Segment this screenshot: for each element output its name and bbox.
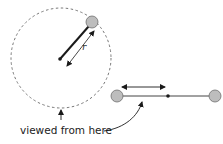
ball-side-right <box>209 90 221 102</box>
ball-top-view <box>86 16 98 28</box>
ball-side-left <box>111 90 123 102</box>
radius-label: r <box>82 42 87 52</box>
orbit-diagram: r viewed from here <box>0 0 223 144</box>
caption-text: viewed from here <box>20 124 112 136</box>
center-point-side <box>166 94 170 98</box>
center-point-top <box>58 57 62 61</box>
